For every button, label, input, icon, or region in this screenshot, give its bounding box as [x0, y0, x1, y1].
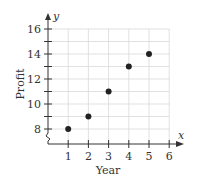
- y-tick-label: 14: [27, 48, 41, 61]
- x-axis-title: Year: [95, 164, 121, 177]
- y-axis-title: Profit: [14, 68, 27, 100]
- data-point: [65, 126, 71, 132]
- axis-break-icon: [46, 133, 50, 144]
- y-tick-label: 16: [27, 23, 41, 36]
- data-point: [126, 64, 132, 70]
- x-axis-variable: x: [178, 129, 185, 142]
- grid-lines: [48, 29, 169, 144]
- tick-labels: 810121416123456: [27, 23, 173, 163]
- y-tick-label: 10: [27, 98, 41, 111]
- x-tick-label: 4: [125, 150, 132, 163]
- data-point: [85, 114, 91, 120]
- y-axis-arrow-icon: [45, 13, 51, 20]
- y-tick-label: 8: [34, 123, 41, 136]
- y-axis-variable: y: [52, 10, 60, 23]
- y-tick-label: 12: [27, 73, 41, 86]
- scatter-chart: 810121416123456 Year Profit x y: [0, 0, 197, 184]
- x-tick-label: 2: [85, 150, 92, 163]
- axes: [44, 13, 184, 148]
- data-point: [146, 51, 152, 57]
- x-tick-label: 6: [166, 150, 173, 163]
- x-tick-label: 5: [146, 150, 153, 163]
- data-point: [106, 89, 112, 95]
- x-tick-label: 3: [105, 150, 112, 163]
- x-tick-label: 1: [65, 150, 72, 163]
